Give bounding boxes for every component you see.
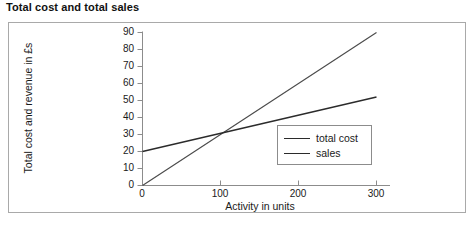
y-tick-label-90: 90 [108,26,134,37]
y-tick-label-70: 70 [108,60,134,71]
legend-item-total-cost: total cost [284,130,358,146]
legend-swatch-sales [284,153,310,154]
legend-item-sales: sales [284,145,341,161]
x-tick-label-100: 100 [200,188,240,199]
x-tick-label-300: 300 [356,188,396,199]
legend-swatch-total-cost [284,138,310,139]
y-tick-label-80: 80 [108,43,134,54]
y-axis-title: Total cost and revenue in £s [22,33,34,183]
legend-label-total-cost: total cost [316,132,358,144]
x-tick-label-0: 0 [122,188,162,199]
x-tick-label-200: 200 [278,188,318,199]
chart-legend: total cost sales [277,125,372,165]
y-tick-label-30: 30 [108,128,134,139]
y-tick-label-60: 60 [108,77,134,88]
legend-label-sales: sales [316,147,341,159]
x-axis-title: Activity in units [142,200,378,212]
y-tick-label-20: 20 [108,145,134,156]
y-tick-label-50: 50 [108,94,134,105]
y-tick-label-10: 10 [108,162,134,173]
y-tick-label-40: 40 [108,111,134,122]
